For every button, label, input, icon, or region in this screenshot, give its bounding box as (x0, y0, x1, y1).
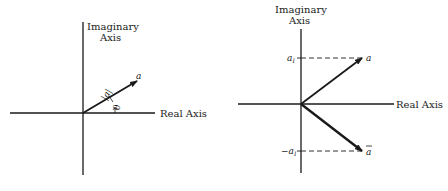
right-vector-a (301, 58, 362, 104)
right-imag-axis-label-line1: Imaginary (275, 4, 327, 15)
left-imag-axis-label-line1: Imaginary (87, 21, 139, 32)
right-imag-axis-label-line2: Axis (288, 15, 310, 26)
left-vector-label: a (136, 71, 141, 81)
left-imag-axis-label-line2: Axis (99, 32, 121, 43)
left-diagram-polar: Imaginary Axis Real Axis a |a| θ (10, 21, 207, 175)
right-vector-a-conjugate (301, 104, 362, 151)
complex-plane-figure: Imaginary Axis Real Axis a |a| θ Imagina… (0, 0, 448, 191)
right-vector-label: a (366, 53, 371, 63)
left-real-axis-label: Real Axis (160, 108, 207, 119)
right-neg-imag-label: −aI (281, 146, 297, 157)
right-diagram-conjugate: Imaginary Axis Real Axis a a aI −aI (238, 4, 443, 173)
right-real-axis-label: Real Axis (396, 99, 443, 110)
right-conjugate-label: a (366, 147, 371, 157)
right-pos-imag-label: aI (287, 53, 295, 64)
